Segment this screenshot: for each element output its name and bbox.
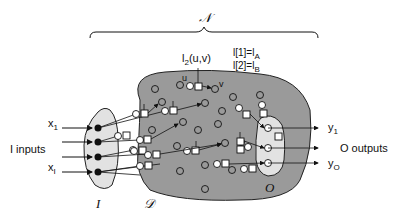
y-first-label: y1 [328, 121, 338, 136]
node-v-label: v [219, 79, 224, 89]
input-region [84, 108, 118, 188]
input-set-label: I [96, 196, 100, 212]
link-label: l2(u,v) [182, 52, 211, 67]
equation-2: l[2]=lB [233, 60, 260, 74]
x-first-label: x1 [48, 117, 58, 132]
node-u-label: u [182, 73, 187, 83]
brace [90, 27, 318, 38]
network-set-label: 𝒟 [144, 196, 154, 212]
network-label: 𝒩 [199, 10, 211, 26]
y-last-label: yO [328, 157, 340, 172]
network-region [138, 70, 311, 200]
network-diagram [0, 0, 394, 220]
x-last-label: xI [48, 161, 56, 176]
equation-1: l[1]=lA [233, 47, 260, 61]
output-set-label: O [265, 180, 274, 196]
outputs-label: O outputs [340, 142, 388, 154]
inputs-label: I inputs [10, 143, 45, 155]
